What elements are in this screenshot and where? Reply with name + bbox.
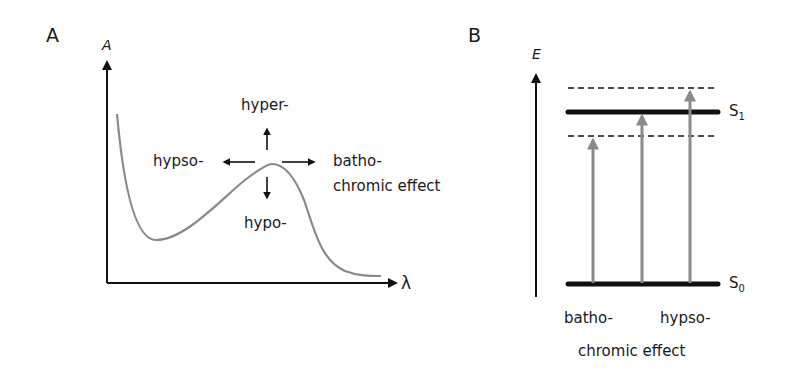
chromic-effect-label-b: chromic effect (578, 344, 685, 359)
panel-b-label: B (468, 26, 481, 45)
batho-label: batho- (333, 154, 382, 169)
s0-main: S (729, 274, 739, 292)
x-axis-label: λ (401, 275, 411, 292)
s0-label: S0 (729, 276, 745, 291)
hypso-label-b: hypso- (660, 311, 711, 326)
hypso-label: hypso- (153, 154, 204, 169)
hyper-label: hyper- (241, 98, 289, 113)
s0-sub: 0 (739, 283, 745, 294)
hypo-label: hypo- (244, 216, 287, 231)
absorption-spectrum-curve (117, 114, 381, 276)
panel-a-label: A (46, 26, 59, 45)
s1-main: S (729, 102, 739, 120)
batho-label-b: batho- (564, 311, 613, 326)
s1-label: S1 (729, 104, 745, 119)
y-axis-label: A (102, 38, 112, 52)
chromic-effect-label-a: chromic effect (333, 179, 440, 194)
energy-axis-label: E (532, 47, 541, 61)
panel-b-diagram (536, 75, 718, 297)
s1-sub: 1 (739, 111, 745, 122)
